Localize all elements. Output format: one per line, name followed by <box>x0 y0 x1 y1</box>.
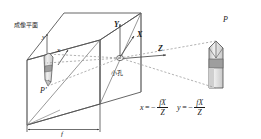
ray-tip-object-to-pinhole <box>120 41 216 58</box>
equation-x-lhs: x <box>140 103 144 112</box>
pen-barrel-shade <box>209 68 214 88</box>
pinhole-camera-figure: 成像平面 小孔 Y X Z y x P P' f x = − fX Z y = … <box>0 0 261 139</box>
equation-x-fraction: fX Z <box>157 99 168 116</box>
diagram-canvas <box>0 0 261 139</box>
equation-x-sign: − <box>151 103 156 112</box>
floor-front-to-rear <box>27 110 60 125</box>
ray-pinhole-to-image-base <box>48 54 120 58</box>
focal-length-dimension <box>27 104 100 132</box>
equation-y-lhs: y <box>177 103 181 112</box>
equation-x: x = − fX Z <box>140 99 168 116</box>
image-pen-inverted <box>44 53 53 86</box>
axis-X-line <box>120 36 134 57</box>
image-pen-grip-band <box>45 65 52 72</box>
axis-Z-line <box>123 55 166 59</box>
equation-x-numerator: fX <box>158 99 167 107</box>
equation-x-equals: = <box>145 103 150 112</box>
box-top-face <box>27 13 141 60</box>
object-pen <box>209 41 223 88</box>
world-axes <box>120 24 166 59</box>
equation-y: y = − fX Z <box>177 99 205 116</box>
box-bottom-edge <box>27 104 100 125</box>
equation-y-numerator: fX <box>195 99 204 107</box>
pen-grip-band <box>209 59 223 68</box>
equation-y-equals: = <box>182 103 187 112</box>
axis-x-line <box>58 50 68 65</box>
camera-box <box>27 13 141 125</box>
ray-base-object-to-pinhole <box>120 58 216 88</box>
equation-y-fraction: fX Z <box>194 99 205 116</box>
diagonal-front-lower <box>27 40 100 125</box>
box-floor-lines <box>27 110 60 125</box>
projection-rays <box>47 41 216 88</box>
equation-x-denominator: Z <box>160 108 166 116</box>
equation-y-sign: − <box>188 103 193 112</box>
projection-equations: x = − fX Z y = − fX Z <box>140 99 205 116</box>
equation-y-denominator: Z <box>197 108 203 116</box>
